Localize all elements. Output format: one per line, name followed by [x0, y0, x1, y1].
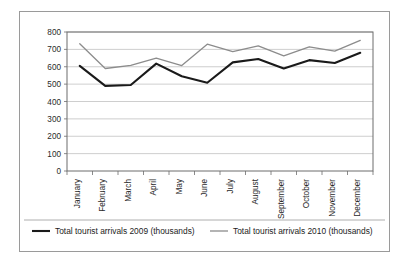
x-axis-tick-label: August	[251, 178, 260, 204]
y-axis-tick-group: 0100200300400500600700800	[47, 28, 67, 176]
y-axis-tick-label: 0	[56, 167, 61, 176]
y-axis-tick-label: 400	[47, 98, 61, 107]
y-axis-tick-label: 500	[47, 80, 61, 89]
series-line-group	[80, 40, 361, 86]
x-axis-tick-label: February	[98, 178, 107, 212]
legend-label: Total tourist arrivals 2009 (thousands)	[55, 226, 195, 236]
y-axis-tick-label: 800	[47, 28, 61, 37]
x-axis-tick-label: September	[277, 179, 286, 219]
y-axis-tick-label: 600	[47, 63, 61, 72]
x-axis-tick-label: October	[302, 179, 311, 208]
tourist-arrivals-line-chart: 0100200300400500600700800 JanuaryFebruar…	[20, 12, 389, 251]
y-axis-tick-label: 700	[47, 45, 61, 54]
chart-legend: Total tourist arrivals 2009 (thousands)T…	[32, 226, 373, 236]
series-line-2009	[80, 53, 361, 86]
y-axis-tick-label: 100	[47, 150, 61, 159]
legend-label: Total tourist arrivals 2010 (thousands)	[233, 226, 373, 236]
x-axis-tick-label: March	[124, 179, 133, 202]
x-axis-tick-group	[67, 171, 373, 175]
x-axis-tick-label: November	[328, 179, 337, 217]
x-axis-label-group: JanuaryFebruaryMarchAprilMayJuneJulyAugu…	[73, 178, 363, 219]
series-line-2010	[80, 40, 361, 68]
x-axis-tick-label: May	[175, 178, 184, 194]
chart-figure: 0100200300400500600700800 JanuaryFebruar…	[19, 11, 390, 252]
x-axis-tick-label: July	[226, 178, 235, 193]
x-axis-tick-label: June	[200, 179, 209, 197]
y-axis-tick-label: 200	[47, 132, 61, 141]
x-axis-tick-label: April	[149, 179, 158, 196]
y-axis-tick-label: 300	[47, 115, 61, 124]
x-axis-tick-label: December	[353, 179, 362, 217]
x-axis-tick-label: January	[73, 178, 82, 208]
